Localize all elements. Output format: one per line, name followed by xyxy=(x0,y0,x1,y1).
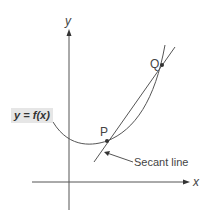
function-label: y = f(x) xyxy=(11,108,53,123)
point-p-label: P xyxy=(100,125,108,139)
x-axis-label: x xyxy=(193,175,199,189)
x-axis-arrow-icon xyxy=(183,180,190,185)
function-curve xyxy=(53,45,165,144)
point-p xyxy=(105,139,109,143)
y-axis-label: y xyxy=(65,14,71,28)
secant-line-label: Secant line xyxy=(134,156,188,168)
secant-pointer xyxy=(107,153,133,162)
point-q-label: Q xyxy=(150,57,159,71)
y-axis-arrow-icon xyxy=(67,29,72,36)
point-q xyxy=(160,63,164,67)
